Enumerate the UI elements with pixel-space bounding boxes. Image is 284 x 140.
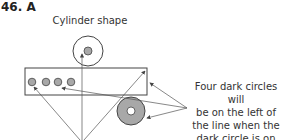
top-circle [73,36,103,66]
note-line: Four dark circles will [188,80,284,106]
note-line: be on the left of [188,106,284,119]
note-line: the line when the [188,119,284,132]
bottom-dark-circle [117,97,145,125]
note-line: dark circle is on top. [188,132,284,140]
explanation-note: Four dark circles will be on the left of… [188,80,284,140]
